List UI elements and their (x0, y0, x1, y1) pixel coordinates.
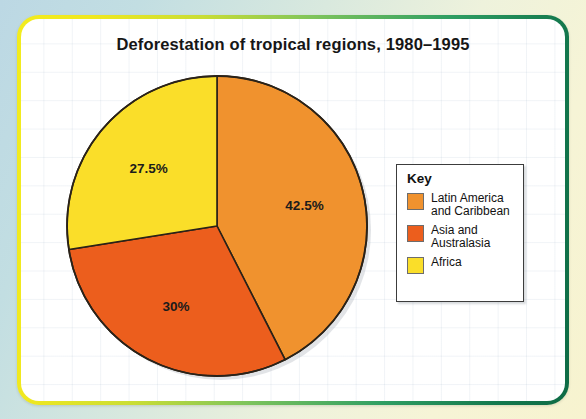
legend-label-line1: Asia and (431, 223, 478, 237)
legend-title: Key (407, 172, 515, 187)
legend-label-line1: Latin America (431, 191, 504, 205)
legend-label-line2: and Caribbean (431, 204, 510, 218)
legend-swatch-asia-australasia (407, 225, 424, 242)
legend-item-latin-america[interactable]: Latin America and Caribbean (407, 192, 515, 219)
chart-card: Deforestation of tropical regions, 1980–… (21, 19, 565, 401)
pie-chart: 42.5% 30% 27.5% (65, 74, 369, 378)
legend-label-asia-australasia: Asia and Australasia (431, 224, 490, 251)
pie-label-latin-america: 42.5% (285, 198, 323, 213)
legend-label-africa: Africa (431, 256, 462, 270)
legend-swatch-africa (407, 257, 424, 274)
legend-label-line2: Australasia (431, 236, 490, 250)
legend-item-asia-australasia[interactable]: Asia and Australasia (407, 224, 515, 251)
legend-label-line1: Africa (431, 255, 462, 269)
legend-item-africa[interactable]: Africa (407, 256, 515, 274)
page-title: Deforestation of tropical regions, 1980–… (21, 35, 565, 54)
chart-card-frame: Deforestation of tropical regions, 1980–… (17, 15, 569, 405)
legend-swatch-latin-america (407, 193, 424, 210)
pie-label-asia-australasia: 30% (163, 299, 190, 314)
chart-legend: Key Latin America and Caribbean Asia and… (396, 164, 524, 302)
legend-label-latin-america: Latin America and Caribbean (431, 192, 510, 219)
pie-label-africa: 27.5% (129, 161, 167, 176)
